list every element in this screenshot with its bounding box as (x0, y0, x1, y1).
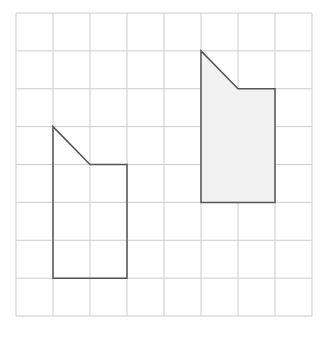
grid-diagram (0, 0, 325, 338)
